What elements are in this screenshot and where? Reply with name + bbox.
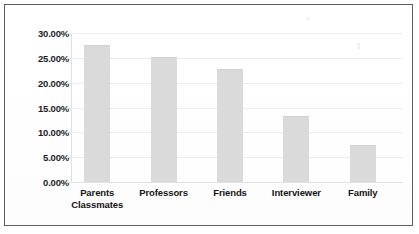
x-axis-label-line-1: Family xyxy=(326,187,400,199)
x-axis-label-professors: Professors xyxy=(127,187,201,199)
bar-family[interactable] xyxy=(350,145,376,182)
bar-interviewer[interactable] xyxy=(283,116,309,182)
x-axis-label-interviewer: Interviewer xyxy=(259,187,333,199)
y-axis-tick-mark xyxy=(66,33,71,34)
x-axis-label-friends: Friends xyxy=(193,187,267,199)
bar-friends[interactable] xyxy=(217,69,243,182)
x-axis-label-line-1: Interviewer xyxy=(259,187,333,199)
x-axis-label-line-1: Friends xyxy=(193,187,267,199)
x-axis-label-family: Family xyxy=(326,187,400,199)
y-axis-tick-label: 0.00% xyxy=(11,177,69,188)
scan-speckle xyxy=(306,17,310,21)
y-axis-tick-mark xyxy=(66,132,71,133)
x-axis-label-parents-classmates: ParentsClassmates xyxy=(60,187,134,210)
chart-container: 0.00%5.00%10.00%15.00%20.00%25.00%30.00%… xyxy=(4,4,413,226)
plot-area xyxy=(71,33,403,182)
y-axis-tick-label: 30.00% xyxy=(11,28,69,39)
plot-wrapper: 0.00%5.00%10.00%15.00%20.00%25.00%30.00%… xyxy=(5,5,412,225)
y-axis-tick-label: 25.00% xyxy=(11,52,69,63)
x-axis-category-labels: ParentsClassmatesProfessorsFriendsInterv… xyxy=(71,187,403,225)
bar-parents-classmates[interactable] xyxy=(84,45,110,182)
x-axis-label-line-1: Professors xyxy=(127,187,201,199)
x-axis-label-line-1: Parents xyxy=(60,187,134,199)
y-axis-tick-mark xyxy=(66,83,71,84)
x-axis-label-line-2: Classmates xyxy=(60,199,134,211)
y-axis-tick-label: 10.00% xyxy=(11,127,69,138)
y-axis-tick-mark xyxy=(66,108,71,109)
axis-baseline xyxy=(71,182,403,183)
y-axis-tick-label: 5.00% xyxy=(11,152,69,163)
y-axis-tick-mark xyxy=(66,58,71,59)
y-axis-tick-mark xyxy=(66,157,71,158)
y-axis-tick-label: 15.00% xyxy=(11,102,69,113)
bar-professors[interactable] xyxy=(151,57,177,182)
y-axis-tick-mark xyxy=(66,182,71,183)
y-axis-tick-label: 20.00% xyxy=(11,77,69,88)
bar-series xyxy=(71,33,403,182)
